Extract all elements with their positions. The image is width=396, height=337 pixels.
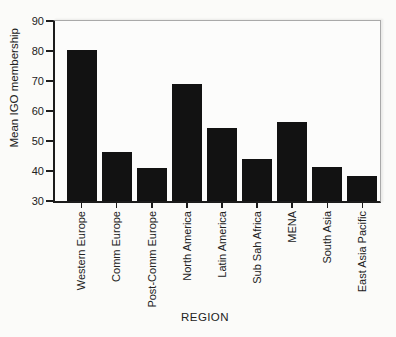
plot-area bbox=[53, 20, 381, 203]
bar-latin-america bbox=[207, 128, 237, 202]
bar-mena bbox=[277, 122, 307, 202]
bar-south-asia bbox=[312, 167, 342, 202]
y-tick-label-40: 40 bbox=[0, 165, 44, 177]
y-tick-mark bbox=[46, 110, 53, 112]
x-tick-label-south-asia: South Asia bbox=[321, 211, 334, 264]
y-tick-mark bbox=[46, 170, 53, 172]
y-tick-mark bbox=[46, 50, 53, 52]
y-tick-label-60: 60 bbox=[0, 105, 44, 117]
y-tick-label-90: 90 bbox=[0, 15, 44, 27]
y-tick-mark bbox=[46, 200, 53, 202]
bar-sub-sah-africa bbox=[242, 159, 272, 201]
x-tick-label-north-america: North America bbox=[180, 211, 193, 281]
y-tick-label-50: 50 bbox=[0, 135, 44, 147]
x-tick-mark bbox=[186, 203, 188, 208]
x-tick-mark bbox=[116, 203, 118, 208]
bar-comm-europe bbox=[102, 152, 132, 202]
x-tick-label-mena: MENA bbox=[286, 211, 299, 243]
y-tick-label-30: 30 bbox=[0, 195, 44, 207]
x-tick-label-east-asia-pacific: East Asia Pacific bbox=[356, 211, 369, 292]
x-tick-mark bbox=[256, 203, 258, 208]
x-tick-mark bbox=[221, 203, 223, 208]
bar-north-america bbox=[172, 84, 202, 201]
x-tick-mark bbox=[81, 203, 83, 208]
x-tick-mark bbox=[327, 203, 329, 208]
y-tick-label-80: 80 bbox=[0, 45, 44, 57]
bar-post-comm-europe bbox=[137, 168, 167, 201]
x-tick-label-sub-sah-africa: Sub Sah Africa bbox=[251, 211, 264, 284]
y-tick-label-70: 70 bbox=[0, 75, 44, 87]
y-tick-mark bbox=[46, 20, 53, 22]
x-tick-mark bbox=[291, 203, 293, 208]
x-tick-mark bbox=[362, 203, 364, 208]
x-tick-label-western-europe: Western Europe bbox=[75, 211, 88, 290]
y-tick-mark bbox=[46, 140, 53, 142]
x-tick-label-comm-europe: Comm Europe bbox=[110, 211, 123, 282]
x-tick-mark bbox=[151, 203, 153, 208]
x-axis-title: REGION bbox=[41, 311, 369, 323]
x-tick-label-latin-america: Latin America bbox=[216, 211, 229, 278]
bar-western-europe bbox=[67, 50, 97, 202]
bar-east-asia-pacific bbox=[347, 176, 377, 202]
bars-container bbox=[55, 21, 380, 201]
x-tick-label-post-comm-europe: Post-Comm Europe bbox=[145, 211, 158, 308]
igo-membership-bar-chart: Mean IGO membership 30405060708090 Weste… bbox=[0, 0, 396, 337]
y-tick-mark bbox=[46, 80, 53, 82]
